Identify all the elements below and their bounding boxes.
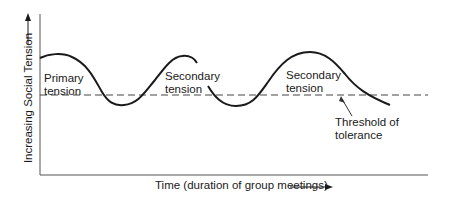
threshold-pointer-arrowhead — [339, 96, 345, 103]
label-primary-tension: Primary tension — [44, 72, 84, 98]
label-secondary-tension-2: Secondary tension — [286, 69, 341, 95]
y-label-arrowhead — [25, 13, 31, 21]
tension-diagram — [0, 0, 449, 200]
label-secondary-tension-1: Secondary tension — [165, 70, 220, 96]
y-axis-label: Increasing Social Tension — [22, 23, 34, 173]
label-threshold-of-tolerance: Threshold of tolerance — [335, 116, 399, 142]
x-axis-label: Time (duration of group meetings) — [155, 179, 328, 191]
